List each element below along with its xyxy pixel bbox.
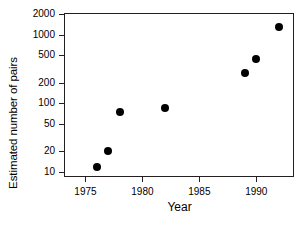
x-axis-tick: [256, 176, 257, 182]
y-axis-tick: [59, 83, 65, 84]
data-point: [252, 55, 260, 63]
data-point: [93, 163, 101, 171]
x-axis-tick: [142, 176, 143, 182]
y-axis-tick-label: 10: [7, 166, 55, 177]
y-axis-tick: [59, 103, 65, 104]
plot-area: 102050100200500100020001975198019851990: [64, 13, 294, 177]
x-axis-tick-label: 1985: [188, 186, 210, 197]
x-axis-tick: [199, 176, 200, 182]
data-point: [275, 23, 283, 31]
data-point: [104, 147, 112, 155]
y-axis-tick: [59, 124, 65, 125]
y-axis-tick: [59, 151, 65, 152]
x-axis-title: Year: [64, 200, 295, 214]
y-axis-tick-label: 200: [7, 77, 55, 88]
data-point: [241, 69, 249, 77]
y-axis-tick-label: 50: [7, 118, 55, 129]
x-axis-tick-label: 1975: [74, 186, 96, 197]
y-axis-tick-label: 100: [7, 97, 55, 108]
scatter-chart-figure: Estimated number of pairs 10205010020050…: [0, 0, 308, 227]
y-axis-tick-label: 500: [7, 49, 55, 60]
data-point: [161, 104, 169, 112]
y-axis-tick-label: 1000: [7, 29, 55, 40]
x-axis-tick: [85, 176, 86, 182]
data-point: [116, 108, 124, 116]
y-axis-tick-label: 2000: [7, 8, 55, 19]
x-axis-tick-label: 1980: [131, 186, 153, 197]
y-axis-tick: [59, 55, 65, 56]
y-axis-tick: [59, 14, 65, 15]
y-axis-tick-label: 20: [7, 145, 55, 156]
x-axis-tick-label: 1990: [245, 186, 267, 197]
y-axis-tick: [59, 172, 65, 173]
y-axis-tick: [59, 35, 65, 36]
